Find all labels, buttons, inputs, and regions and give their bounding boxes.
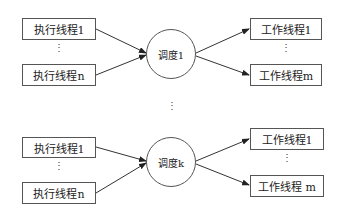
scheduler-1-node: 调度1 bbox=[146, 29, 196, 79]
exec-thread-1-box: 执行线程1 bbox=[22, 18, 96, 40]
worker-thread-1-box: 工作线程1 bbox=[250, 128, 324, 150]
ellipsis: ⋮ bbox=[282, 156, 292, 160]
group-ellipsis: ⋮ bbox=[167, 104, 177, 108]
scheduler-k-node: 调度k bbox=[146, 137, 196, 187]
exec-thread-n-box: 执行线程n bbox=[22, 64, 96, 86]
worker-thread-m-box: 工作线程m bbox=[250, 64, 322, 86]
exec-thread-n-box: 执行线程n bbox=[22, 182, 96, 204]
ellipsis: ⋮ bbox=[54, 164, 64, 168]
ellipsis: ⋮ bbox=[281, 46, 291, 50]
ellipsis: ⋮ bbox=[54, 46, 64, 50]
worker-thread-m-box: 工作线程 m bbox=[250, 175, 324, 197]
worker-thread-1-box: 工作线程1 bbox=[250, 18, 322, 40]
exec-thread-1-box: 执行线程1 bbox=[22, 137, 96, 158]
